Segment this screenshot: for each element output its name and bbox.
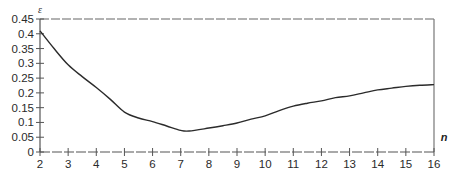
y-axis-title: ε — [38, 4, 42, 15]
x-tick-label: 16 — [428, 158, 441, 170]
x-tick-label: 2 — [37, 158, 43, 170]
x-tick-label: 12 — [315, 158, 328, 170]
y-tick-label: 0.2 — [18, 87, 34, 99]
line-chart: 00.050.10.150.20.250.30.350.40.45 234567… — [0, 0, 456, 178]
series-line-0 — [40, 31, 434, 131]
x-tick-label: 6 — [149, 158, 155, 170]
x-tick-label: 4 — [93, 158, 100, 170]
y-tick-label: 0.35 — [12, 43, 34, 55]
y-tick-label: 0.25 — [12, 72, 34, 84]
x-tick-label: 8 — [206, 158, 212, 170]
y-tick-label: 0.15 — [12, 102, 34, 114]
y-tick-label: 0.3 — [18, 57, 34, 69]
x-tick-label: 15 — [399, 158, 412, 170]
y-axis: 00.050.10.150.20.250.30.350.40.45 — [12, 13, 44, 158]
x-tick-label: 10 — [259, 158, 272, 170]
x-tick-label: 7 — [178, 158, 184, 170]
x-axis: 2345678910111213141516 — [37, 148, 441, 170]
y-tick-label: 0.4 — [18, 28, 35, 40]
y-tick-label: 0 — [28, 146, 34, 158]
y-tick-label: 0.45 — [12, 13, 34, 25]
plot-frame — [40, 19, 434, 152]
y-tick-label: 0.1 — [18, 116, 34, 128]
x-tick-label: 5 — [121, 158, 127, 170]
x-tick-label: 11 — [287, 158, 299, 170]
x-tick-label: 13 — [343, 158, 356, 170]
x-tick-label: 14 — [371, 158, 384, 170]
series-group — [40, 31, 434, 131]
y-tick-label: 0.05 — [12, 131, 34, 143]
x-axis-title: n — [441, 131, 448, 143]
x-tick-label: 3 — [65, 158, 71, 170]
x-tick-label: 9 — [234, 158, 240, 170]
